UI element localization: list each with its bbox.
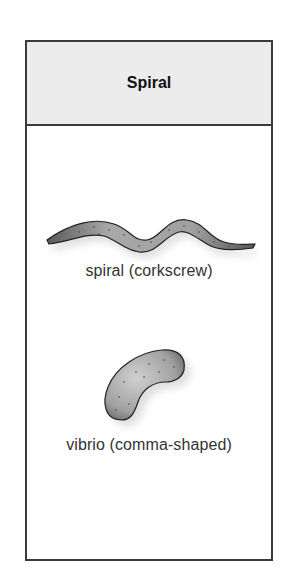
spiral-caption: spiral (corkscrew) xyxy=(27,262,271,280)
spiral-figure: spiral (corkscrew) xyxy=(27,202,271,280)
vibrio-figure: vibrio (comma-shaped) xyxy=(27,342,271,454)
spiral-bacterium-icon xyxy=(39,202,259,262)
vibrio-bacterium-icon xyxy=(94,342,204,432)
vibrio-caption: vibrio (comma-shaped) xyxy=(27,436,271,454)
panel-title: Spiral xyxy=(127,74,171,92)
panel-header: Spiral xyxy=(27,42,271,126)
spiral-morphology-panel: Spiral spi xyxy=(25,40,273,561)
